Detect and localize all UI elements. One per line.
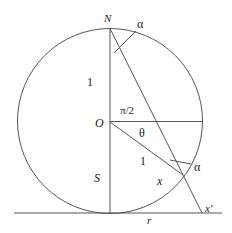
label-north: N xyxy=(103,12,112,24)
label-south: S xyxy=(94,171,100,185)
label-radius-lower: 1 xyxy=(140,154,146,168)
projection-line xyxy=(110,29,202,214)
diagram-svg: N α 1 π/2 O θ 1 α S x x' r xyxy=(0,0,232,233)
label-point-x: x xyxy=(156,174,163,188)
alpha-tick-top xyxy=(114,31,136,53)
label-theta: θ xyxy=(139,126,145,140)
label-alpha-top: α xyxy=(137,17,144,31)
label-radius-upper: 1 xyxy=(87,75,93,89)
label-point-x-prime: x' xyxy=(204,202,213,214)
label-line-r: r xyxy=(147,214,152,226)
label-origin: O xyxy=(95,116,104,130)
label-alpha-bottom: α xyxy=(194,160,201,174)
label-right-angle: π/2 xyxy=(120,104,134,116)
stereographic-projection-diagram: N α 1 π/2 O θ 1 α S x x' r xyxy=(0,0,232,233)
alpha-tick-bottom xyxy=(170,160,191,164)
radius-to-x xyxy=(110,122,183,175)
